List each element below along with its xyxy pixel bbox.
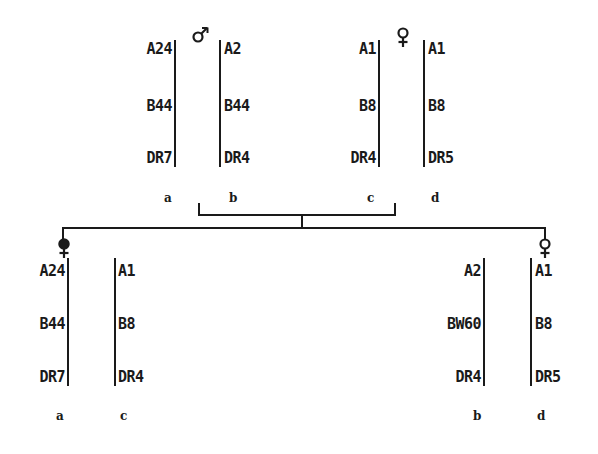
haplotype-line [67, 258, 69, 386]
allele-d-A: A1 [535, 263, 552, 279]
allele-d-A: A1 [428, 41, 445, 57]
allele-b-B: B44 [224, 98, 250, 114]
allele-c-DR: DR4 [350, 150, 376, 166]
haplotype-line [483, 258, 485, 386]
haplotype-line [174, 40, 176, 167]
haplotype-line [423, 40, 425, 167]
allele-a-DR: DR7 [146, 150, 172, 166]
allele-c-B: B8 [359, 98, 376, 114]
allele-d-DR: DR5 [428, 150, 454, 166]
allele-d-B: B8 [535, 316, 552, 332]
affected-female-symbol-icon [56, 238, 72, 260]
allele-c-A: A1 [359, 41, 376, 57]
haplotype-label: d [431, 192, 439, 204]
haplotype-label: d [537, 410, 545, 422]
allele-b-DR: DR4 [455, 369, 481, 385]
allele-b-DR: DR4 [224, 150, 250, 166]
haplotype-line [219, 40, 221, 167]
allele-b-A: A2 [224, 41, 241, 57]
haplotype-label: b [473, 410, 481, 422]
allele-d-B: B8 [428, 98, 445, 114]
female-symbol-icon [395, 27, 411, 49]
haplotype-label: b [229, 192, 237, 204]
haplotype-label: a [56, 410, 64, 422]
allele-a-DR: DR7 [39, 369, 65, 385]
haplotype-label: a [164, 192, 172, 204]
allele-c-B: B8 [118, 316, 135, 332]
haplotype-line [114, 258, 116, 386]
allele-d-DR: DR5 [535, 369, 561, 385]
allele-a-B: B44 [39, 316, 65, 332]
haplotype-line [530, 258, 532, 386]
female-symbol-icon [537, 238, 553, 260]
allele-c-A: A1 [118, 263, 135, 279]
allele-a-A: A24 [39, 263, 65, 279]
bracket-bar [198, 214, 396, 216]
allele-a-B: B44 [146, 98, 172, 114]
allele-a-A: A24 [146, 41, 172, 57]
male-symbol-icon [191, 26, 211, 44]
allele-b-A: A2 [464, 263, 481, 279]
haplotype-label: c [120, 410, 127, 422]
pedigree-diagram: A24 B44 DR7 a A2 B44 DR4 b A1 B8 DR4 c A… [0, 0, 598, 454]
allele-b-B: BW60 [447, 316, 481, 332]
sibship-line [62, 227, 546, 229]
allele-c-DR: DR4 [118, 369, 144, 385]
haplotype-label: c [367, 192, 374, 204]
haplotype-line [378, 40, 380, 167]
